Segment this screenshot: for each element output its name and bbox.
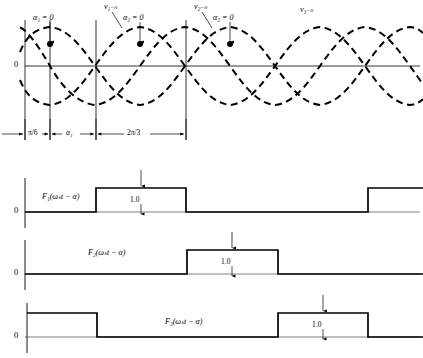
figure-container: 0 α₁ = 0 α₂ = 0 α₃ = 0 v₁₋ₙ v₂₋ₙ v₃₋ₙ π/… <box>0 0 423 358</box>
waveform-panel <box>20 12 423 140</box>
pulse-train-f3 <box>25 295 423 353</box>
voltage-v3n-label: v₃₋ₙ <box>300 6 313 14</box>
dimension-pi6-label: π/6 <box>28 129 38 137</box>
figure-graphics <box>0 0 423 358</box>
f3-waveform <box>27 313 423 337</box>
f2-zero-label: 0 <box>14 268 18 277</box>
f1-function-label: F₁(ωₛt − α) <box>42 193 79 201</box>
voltage-v2n-label: v₂₋ₙ <box>194 3 207 11</box>
alpha2-label: α₂ = 0 <box>123 14 143 22</box>
wave-zero-label: 0 <box>14 60 18 69</box>
f3-zero-label: 0 <box>14 331 18 340</box>
f1-waveform <box>25 188 423 212</box>
f1-amplitude-label: 1.0 <box>130 196 139 204</box>
leader-v1n <box>112 12 122 28</box>
pulse-train-f1 <box>25 170 423 228</box>
dimension-alpha1-label: α₁ <box>66 129 73 137</box>
alpha1-label: α₁ = 0 <box>33 14 53 22</box>
f3-amplitude-label: 1.0 <box>312 321 321 329</box>
alpha3-label: α₃ = 0 <box>213 14 233 22</box>
f3-function-label: F₃(ωₛt − α) <box>165 318 202 326</box>
f2-function-label: F₂(ωₛt − α) <box>88 249 125 257</box>
f1-zero-label: 0 <box>14 206 18 215</box>
leader-v2n <box>202 12 212 28</box>
dimension-2pi3-label: 2π/3 <box>127 129 140 137</box>
voltage-v1n-label: v₁₋ₙ <box>104 3 117 11</box>
f2-amplitude-label: 1.0 <box>221 258 230 266</box>
